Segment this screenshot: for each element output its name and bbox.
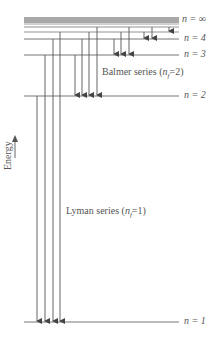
- lyman-series-label: Lyman series (nf=1): [66, 205, 146, 219]
- brackett-arrows: [144, 27, 152, 38]
- balmer-series-name: Balmer series: [102, 66, 157, 77]
- label-n1: n = 1: [184, 315, 206, 326]
- lyman-series-name: Lyman series: [66, 205, 119, 216]
- balmer-series-label: Balmer series (nf=2): [102, 66, 183, 80]
- balmer-eq: =2): [170, 66, 184, 77]
- paschen-arrows: [114, 27, 129, 54]
- energy-axis-label: Energy: [2, 141, 13, 170]
- balmer-arrows: [75, 27, 97, 95]
- lyman-arrows: [37, 32, 60, 321]
- label-n4: n = 4: [184, 32, 206, 43]
- label-n-infinity: n = ∞: [182, 13, 206, 24]
- label-n2: n = 2: [184, 89, 206, 100]
- lyman-eq: =1): [132, 205, 146, 216]
- label-n3: n = 3: [184, 48, 206, 59]
- continuum-band: [24, 17, 179, 32]
